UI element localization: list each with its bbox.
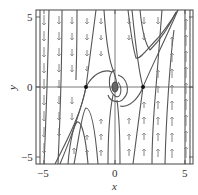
x-tick-label-5: 5 <box>182 168 188 179</box>
phase-portrait-plot <box>0 0 198 195</box>
x-tick-label-neg5: −5 <box>37 168 49 179</box>
y-tick-label-5: 5 <box>27 12 33 23</box>
y-tick-label-0: 0 <box>27 82 33 93</box>
y-axis-label: y <box>7 85 18 90</box>
x-tick-label-0: 0 <box>112 168 118 179</box>
saddle-point-left <box>84 85 88 89</box>
y-tick-label-neg5: −5 <box>21 152 33 163</box>
saddle-point-right <box>141 85 145 89</box>
plot-area <box>36 10 193 164</box>
x-axis-label: x <box>112 181 117 192</box>
